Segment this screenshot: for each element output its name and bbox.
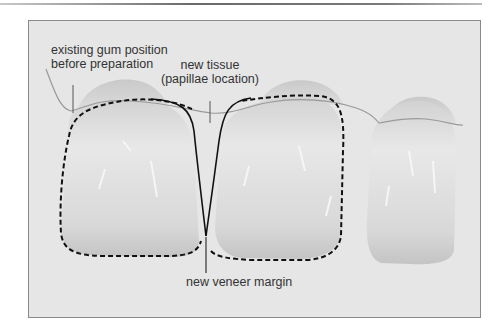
label-gum-line-2: before preparation: [51, 57, 168, 71]
label-margin-text: new veneer margin: [186, 275, 292, 289]
label-gum-line-1: existing gum position: [51, 43, 168, 57]
tooth-right: [367, 101, 456, 264]
label-new-tissue: new tissue (papillae location): [161, 58, 259, 86]
label-veneer-margin: new veneer margin: [186, 275, 292, 289]
tooth-middle: [215, 97, 343, 259]
top-rule: [0, 3, 482, 5]
diagram-frame: existing gum position before preparation…: [28, 20, 481, 318]
label-tissue-line-2: (papillae location): [161, 72, 259, 86]
label-tissue-line-1: new tissue: [161, 58, 259, 72]
label-existing-gum: existing gum position before preparation: [51, 43, 168, 71]
tooth-left: [61, 100, 199, 257]
